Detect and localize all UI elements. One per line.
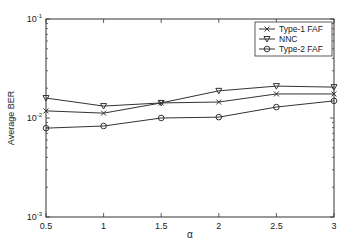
y-tick-label: 10-1 <box>27 13 43 24</box>
x-tick-label: 0.5 <box>40 221 53 231</box>
legend-label: Type-1 FAF <box>279 24 323 34</box>
x-tick-label: 1 <box>101 221 106 231</box>
plot-series <box>43 84 337 131</box>
x-axis-label: α <box>187 229 193 240</box>
y-tick-label: 10-2 <box>27 112 43 123</box>
legend: Type-1 FAFNNCType-2 FAF <box>255 22 332 56</box>
y-axis-label: Average BER <box>6 90 16 145</box>
series-type-2-faf <box>43 98 337 131</box>
legend-label: NNC <box>279 34 297 44</box>
legend-label: Type-2 FAF <box>279 44 323 54</box>
x-tick-label: 2 <box>216 221 221 231</box>
ber-chart: 10-110-210-3 0.511.522.53 α Average BER … <box>0 0 355 246</box>
x-tick-label: 2.5 <box>270 221 283 231</box>
x-tick-label: 1.5 <box>155 221 168 231</box>
x-tick-label: 3 <box>331 221 336 231</box>
